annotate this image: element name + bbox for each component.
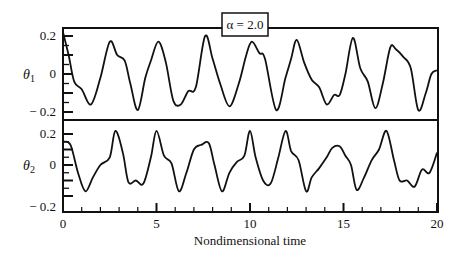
x-tick-20: 20 [431, 216, 444, 231]
y-tick-bot-0.2: 0.2 [40, 126, 56, 141]
chart-figure: α = 2.0 0.2 0 − 0.2 0.2 0 − 0.2 θ1 θ2 0 … [0, 0, 465, 253]
x-tick-5: 5 [153, 216, 160, 231]
x-tick-0: 0 [60, 216, 67, 231]
legend-label: α = 2.0 [227, 17, 264, 32]
y-tick-bot-neg0.2: − 0.2 [29, 199, 56, 214]
y-axis-bottom [63, 134, 73, 196]
x-axis-label: Nondimensional time [194, 233, 307, 248]
y-axis-label-theta1: θ1 [23, 67, 35, 84]
theta1-curve [63, 32, 437, 111]
theta2-curve [63, 131, 437, 192]
x-tick-15: 15 [337, 216, 350, 231]
x-tick-10: 10 [244, 216, 257, 231]
x-axis [63, 203, 437, 212]
y-axis-label-theta2: θ2 [23, 158, 35, 175]
y-tick-top-0: 0 [50, 66, 57, 81]
y-tick-top-0.2: 0.2 [40, 28, 56, 43]
y-tick-bot-0: 0 [50, 157, 57, 172]
y-tick-top-neg0.2: − 0.2 [29, 104, 56, 119]
